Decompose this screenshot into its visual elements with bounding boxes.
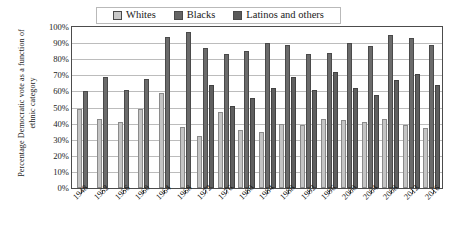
- x-tick-cell: 1972: [195, 190, 216, 230]
- bar-blacks-1952: [103, 77, 108, 188]
- bar-whites-1988: [279, 124, 284, 188]
- x-tick-cell: 1952: [92, 190, 113, 230]
- bar-whites-1980: [238, 130, 243, 188]
- bar-latinos-1972: [209, 85, 214, 188]
- bar-whites-2012: [403, 125, 408, 188]
- bar-group-1996: [319, 27, 340, 188]
- bar-blacks-1972: [203, 48, 208, 188]
- bar-group-1980: [237, 27, 258, 188]
- bar-blacks-1968: [186, 32, 191, 188]
- bar-blacks-1956: [124, 90, 129, 188]
- chart-legend: Whites Blacks Latinos and others: [96, 7, 341, 24]
- bar-whites-1996: [321, 119, 326, 188]
- bar-blacks-1984: [265, 43, 270, 188]
- x-tick-cell: 2012: [402, 190, 423, 230]
- y-tick-label: 50%: [53, 103, 69, 112]
- x-tick-cell: 1956: [112, 190, 133, 230]
- x-tick-cell: 1960: [133, 190, 154, 230]
- chart-figure: Whites Blacks Latinos and others Percent…: [0, 0, 452, 246]
- bar-blacks-1960: [144, 79, 149, 188]
- x-tick-cell: 2000: [340, 190, 361, 230]
- bar-latinos-2000: [353, 88, 358, 188]
- x-tick-cell: 1964: [154, 190, 175, 230]
- bar-group-1956: [113, 27, 134, 188]
- x-tick-cell: 2016: [422, 190, 443, 230]
- bar-blacks-1980: [244, 51, 249, 188]
- bar-group-1988: [278, 27, 299, 188]
- bar-whites-1956: [118, 122, 123, 188]
- x-tick-cell: 1992: [298, 190, 319, 230]
- bar-group-1976: [216, 27, 237, 188]
- y-tick-label: 0%: [58, 184, 69, 193]
- x-tick-cell: 1996: [319, 190, 340, 230]
- bar-blacks-1948: [83, 91, 88, 188]
- bar-latinos-2004: [374, 95, 379, 188]
- bar-latinos-2012: [415, 74, 420, 188]
- legend-item-blacks: Blacks: [174, 10, 216, 21]
- bar-whites-1952: [97, 119, 102, 188]
- bar-whites-1964: [159, 93, 164, 188]
- x-tick-cell: 1988: [278, 190, 299, 230]
- bar-group-2008: [380, 27, 401, 188]
- x-tick-cell: 1984: [257, 190, 278, 230]
- whites-swatch-icon: [113, 11, 122, 20]
- bar-group-2000: [339, 27, 360, 188]
- bar-blacks-1992: [306, 54, 311, 188]
- bar-whites-1992: [300, 125, 305, 188]
- bar-blacks-2004: [368, 46, 373, 188]
- y-tick-label: 70%: [53, 71, 69, 80]
- y-tick-label: 100%: [49, 23, 69, 32]
- bar-latinos-1984: [271, 88, 276, 188]
- bar-whites-1968: [180, 127, 185, 188]
- bar-group-1972: [195, 27, 216, 188]
- bar-group-2012: [401, 27, 422, 188]
- y-tick-label: 90%: [53, 39, 69, 48]
- bar-blacks-1964: [165, 37, 170, 188]
- bar-latinos-1992: [312, 90, 317, 188]
- bar-latinos-2016: [435, 85, 440, 188]
- y-tick-label: 80%: [53, 55, 69, 64]
- latinos-swatch-icon: [233, 11, 242, 20]
- bar-group-1964: [154, 27, 175, 188]
- bar-blacks-2016: [429, 45, 434, 188]
- bar-whites-2016: [423, 128, 428, 188]
- bar-whites-1960: [138, 109, 143, 188]
- bar-whites-2004: [362, 122, 367, 188]
- bar-group-1968: [175, 27, 196, 188]
- legend-label-blacks: Blacks: [187, 10, 216, 21]
- bar-group-1984: [257, 27, 278, 188]
- bar-latinos-1996: [333, 72, 338, 188]
- x-tick-cell: 2004: [360, 190, 381, 230]
- bar-latinos-1976: [230, 106, 235, 188]
- y-tick-label: 20%: [53, 152, 69, 161]
- bar-blacks-2012: [409, 38, 414, 188]
- bar-whites-1948: [77, 109, 82, 188]
- x-tick-cell: 1968: [174, 190, 195, 230]
- bar-group-1960: [134, 27, 155, 188]
- bar-blacks-2008: [388, 35, 393, 188]
- bar-whites-2000: [341, 120, 346, 188]
- x-tick-cell: 1976: [216, 190, 237, 230]
- bar-whites-1984: [259, 132, 264, 188]
- bar-groups: [72, 27, 442, 188]
- y-tick-label: 30%: [53, 135, 69, 144]
- plot-area: [71, 26, 443, 189]
- x-tick-cell: 1980: [236, 190, 257, 230]
- bar-group-1948: [72, 27, 93, 188]
- y-tick-label: 40%: [53, 119, 69, 128]
- legend-item-latinos: Latinos and others: [233, 10, 324, 21]
- blacks-swatch-icon: [174, 11, 183, 20]
- bar-group-2004: [360, 27, 381, 188]
- bar-latinos-2008: [394, 80, 399, 188]
- bar-group-1952: [93, 27, 114, 188]
- bar-blacks-1996: [327, 53, 332, 188]
- x-axis-ticks: 1948195219561960196419681972197619801984…: [71, 190, 443, 230]
- bar-whites-2008: [382, 119, 387, 188]
- bar-group-1992: [298, 27, 319, 188]
- legend-item-whites: Whites: [113, 10, 156, 21]
- bar-whites-1976: [218, 112, 223, 188]
- y-tick-label: 10%: [53, 168, 69, 177]
- y-axis-ticks: 100%90%80%70%60%50%40%30%20%10%0%: [36, 26, 69, 189]
- y-axis-title: Percentage Democratic vote as a function…: [16, 18, 38, 188]
- bar-latinos-1980: [250, 98, 255, 188]
